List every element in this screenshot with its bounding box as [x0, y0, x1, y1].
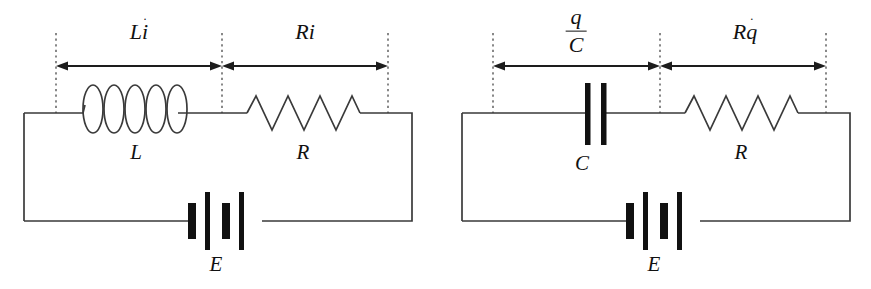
battery-symbol-left — [188, 192, 244, 250]
resistor-symbol-right — [685, 96, 798, 130]
right-circuit-wire — [462, 113, 850, 221]
resistor-symbol-left — [247, 96, 360, 130]
right-circuit-group — [462, 33, 850, 250]
capacitor-symbol-right — [585, 83, 607, 145]
right-dimension-arrow-capacitor — [493, 61, 660, 70]
left-dimension-arrow-resistor — [222, 61, 388, 70]
circuit-drawing-canvas — [0, 0, 871, 289]
left-circuit-group — [24, 33, 412, 250]
circuit-figure: Li˙ Ri L R E q C Rq˙ C R E — [0, 0, 871, 289]
inductor-symbol-left — [83, 85, 187, 133]
left-dimension-arrow-inductor — [56, 61, 222, 70]
left-circuit-wire — [24, 113, 412, 221]
battery-symbol-right — [626, 192, 682, 250]
right-dimension-arrow-resistor — [660, 61, 826, 70]
